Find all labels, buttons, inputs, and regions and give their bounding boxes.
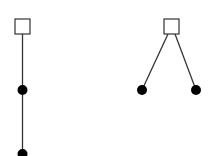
root-square-node (15, 19, 30, 34)
leaf-circle-node (137, 85, 147, 95)
edge-line (142, 34, 168, 90)
root-square-node (164, 19, 179, 34)
leaf-circle-node (18, 85, 28, 95)
chain-tree (15, 19, 30, 156)
fork-tree (137, 19, 201, 95)
leaf-circle-node (191, 85, 201, 95)
leaf-circle-node (18, 149, 28, 156)
tree-diagram (0, 0, 217, 156)
edge-line (175, 34, 196, 90)
